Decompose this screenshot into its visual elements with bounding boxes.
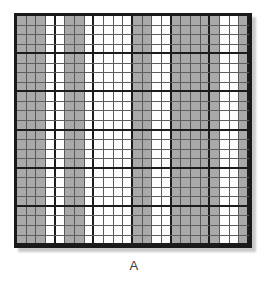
- grid-column: [133, 16, 143, 245]
- grid-column: [27, 16, 37, 245]
- grid-column: [210, 16, 220, 245]
- grid-column: [123, 16, 133, 245]
- grid-column: [201, 16, 211, 245]
- grid-column: [162, 16, 172, 245]
- grid-column: [239, 16, 249, 245]
- grid-column: [191, 16, 201, 245]
- grid-column: [75, 16, 85, 245]
- grid-column: [114, 16, 124, 245]
- grid-column: [181, 16, 191, 245]
- grid-column: [85, 16, 95, 245]
- grid-column: [36, 16, 46, 245]
- grid-columns-container: [17, 16, 249, 245]
- grid-column: [46, 16, 56, 245]
- grid-column: [17, 16, 27, 245]
- grid-column: [65, 16, 75, 245]
- grid-column: [94, 16, 104, 245]
- grid-column: [152, 16, 162, 245]
- grid-column: [230, 16, 240, 245]
- grid-column: [172, 16, 182, 245]
- figure-root: A: [0, 0, 268, 286]
- figure-caption: A: [0, 258, 268, 273]
- grid-column: [104, 16, 114, 245]
- grid-column: [220, 16, 230, 245]
- grid-column: [56, 16, 66, 245]
- grid-panel: [14, 13, 252, 248]
- grid-column: [143, 16, 153, 245]
